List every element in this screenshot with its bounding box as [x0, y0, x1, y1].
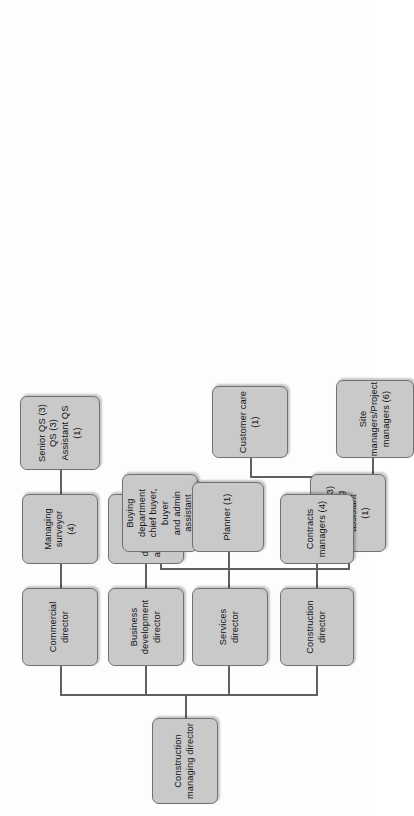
node-site-project-managers[interactable]: Site managers/Project managers (6) — [336, 380, 414, 458]
connector-services-bus — [160, 568, 350, 570]
connector-bizdev-to-assistants — [145, 562, 147, 590]
node-label: Buying department chief buyer, buyer and… — [125, 478, 195, 548]
connector-contracts-to-customer-care — [250, 456, 252, 478]
node-construction-managing-director[interactable]: Construction managing director — [152, 718, 218, 804]
node-label: Construction director — [305, 600, 328, 653]
node-label: Site managers/Project managers (6) — [358, 382, 393, 456]
connector-root-to-bizdev — [145, 664, 147, 696]
connector-root-to-construction — [316, 664, 318, 696]
connector-root-stub — [185, 694, 187, 720]
connector-commercial-to-surveyor — [60, 562, 62, 590]
node-label: Customer care (1) — [238, 390, 261, 454]
node-label: Planner (1) — [222, 493, 234, 540]
connector-root-to-services — [228, 664, 230, 696]
connector-root-to-commercial — [60, 664, 62, 696]
node-label: Services director — [218, 592, 241, 662]
node-business-development-director[interactable]: Business development director — [108, 588, 184, 666]
node-customer-care[interactable]: Customer care (1) — [212, 386, 288, 458]
node-label: Senior QS (3) QS (3) Assistant QS (1) — [37, 400, 83, 466]
connector-root-trunk — [60, 694, 318, 696]
connector-services-to-planner — [228, 550, 230, 570]
connector-surveyor-to-qs — [60, 468, 62, 496]
node-label: Managing surveyor (4) — [43, 498, 78, 560]
node-label: Business development director — [129, 600, 164, 654]
node-label: Contracts managers (4) — [305, 501, 328, 558]
node-buying-department[interactable]: Buying department chief buyer, buyer and… — [122, 474, 198, 552]
node-services-director[interactable]: Services director — [192, 588, 268, 666]
node-quantity-surveyors[interactable]: Senior QS (3) QS (3) Assistant QS (1) — [20, 396, 100, 470]
node-contracts-managers[interactable]: Contracts managers (4) — [280, 494, 354, 564]
node-label: Commercial director — [48, 602, 71, 653]
node-commercial-director[interactable]: Commercial director — [22, 588, 98, 666]
node-managing-surveyor[interactable]: Managing surveyor (4) — [22, 494, 98, 564]
connector-services-stub — [228, 568, 230, 590]
connector-construction-to-contracts — [316, 562, 318, 590]
node-label: Construction managing director — [173, 723, 196, 799]
node-construction-director[interactable]: Construction director — [280, 588, 354, 666]
node-planner[interactable]: Planner (1) — [192, 482, 264, 552]
